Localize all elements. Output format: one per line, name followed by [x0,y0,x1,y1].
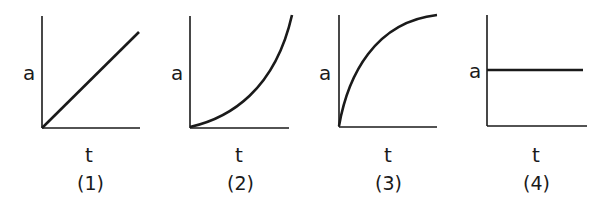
x-axis-label: t [235,143,243,167]
curve-linear [42,32,139,128]
x-axis-label: t [85,143,93,167]
panel-caption: (3) [375,172,402,194]
panel-caption: (2) [227,172,254,194]
graphs-figure: a t (1) a t (2) a t (3) a t (4) [0,0,604,207]
panel-caption: (4) [523,172,550,194]
panel-4: a t (4) [469,15,587,194]
curve-concave-down [339,15,437,126]
y-axis-label: a [171,61,183,85]
panel-3: a t (3) [319,15,437,194]
panel-1: a t (1) [23,16,140,194]
panel-caption: (1) [77,172,104,194]
x-axis-label: t [384,143,392,167]
panel-2: a t (2) [171,15,292,194]
x-axis-label: t [532,143,540,167]
curve-concave-up [190,15,292,127]
y-axis-label: a [23,61,35,85]
y-axis-label: a [469,59,481,83]
y-axis-label: a [319,61,331,85]
